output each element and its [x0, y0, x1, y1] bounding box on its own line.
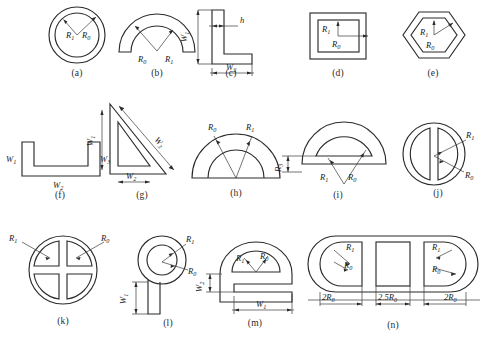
panel-a-label-r0: R0 [81, 30, 91, 41]
panel-m-caption: (m) [200, 318, 310, 328]
panel-m-label-w1: W1 [256, 299, 266, 310]
panel-k-caption: (k) [8, 316, 118, 326]
panel-d-label-r1: R1 [321, 24, 330, 35]
panel-j-label-r1: R1 [465, 130, 474, 141]
panel-e-drawing: R1 R0 [383, 4, 483, 66]
panel-c-label-w1: W1 [179, 32, 190, 42]
panel-m-drawing: R1 R0 W2 W1 [200, 228, 310, 320]
panel-e: R1 R0 (e) [383, 4, 483, 66]
panel-h-label-r1: R1 [245, 122, 254, 133]
panel-n: R1 R0 R1 R0 2R0 2.5R0 2R0 (n [300, 230, 486, 322]
panel-k: R1 R0 (k) [8, 228, 118, 314]
panel-c: W1 h W2 (c) [176, 4, 286, 70]
panel-n-drawing: R1 R0 R1 R0 2R0 2.5R0 2R0 [300, 230, 486, 322]
panel-n-label-dim-right: 2R0 [444, 292, 458, 303]
panel-i-label-r0: R0 [347, 172, 357, 183]
panel-i-caption: (i) [280, 190, 396, 200]
panel-c-label-h: h [240, 15, 244, 25]
panel-d-drawing: R1 R0 [288, 4, 388, 66]
panel-n-label-r1-right: R1 [431, 242, 440, 253]
panel-n-label-r0-left: R0 [343, 260, 353, 271]
panel-l-label-r0: R0 [187, 266, 197, 277]
panel-g-caption: (g) [88, 190, 196, 200]
panel-k-drawing: R1 R0 [8, 228, 118, 314]
panel-c-drawing: W1 h W2 [176, 4, 286, 70]
panel-k-label-r0: R0 [100, 233, 110, 244]
panel-g: W1 W2 W3 (g) [88, 100, 196, 192]
panel-b-label-r0: R0 [137, 54, 147, 65]
panel-j-label-r0: R0 [464, 170, 474, 181]
panel-l-label-w1: W1 [118, 294, 129, 304]
panel-h-drawing: R0 R1 [184, 116, 288, 190]
panel-d-label-r0: R0 [331, 39, 341, 50]
panel-d: R1 R0 (d) [288, 4, 388, 66]
panel-i: R1 R0 R3 (i) [280, 122, 396, 192]
panel-j: R1 R0 (j) [390, 118, 486, 190]
panel-d-caption: (d) [288, 68, 388, 78]
panel-g-drawing: W1 W2 W3 [88, 100, 196, 192]
panel-i-drawing: R1 R0 R3 [280, 122, 396, 192]
panel-m-label-r0: R0 [259, 251, 269, 262]
panel-e-label-r1: R1 [419, 27, 428, 38]
panel-j-caption: (j) [390, 188, 486, 198]
panel-j-drawing: R1 R0 [390, 118, 486, 190]
panel-n-label-dim-mid: 2.5R0 [378, 292, 398, 303]
panel-i-label-r1: R1 [319, 172, 328, 183]
panel-a-label-r1: R1 [65, 30, 74, 41]
panel-e-label-r0: R0 [425, 40, 435, 51]
panel-n-caption: (n) [300, 320, 486, 330]
figure-sheet: R1 R0 (a) R0 R1 (b) W1 h [0, 0, 488, 355]
panel-g-label-w2: W2 [126, 171, 136, 182]
panel-n-label-dim-left: 2R0 [322, 292, 336, 303]
panel-m: R1 R0 W2 W1 (m) [200, 228, 310, 320]
panel-g-label-w3: W3 [152, 135, 167, 150]
panel-h: R0 R1 (h) [184, 116, 288, 190]
panel-k-label-r1: R1 [8, 233, 17, 244]
panel-n-label-r1-left: R1 [345, 242, 354, 253]
panel-b-label-r1: R1 [164, 54, 173, 65]
panel-h-label-r0: R0 [207, 122, 217, 133]
panel-n-label-r0-right: R0 [431, 264, 441, 275]
panel-f-label-w1: W1 [6, 154, 16, 165]
panel-c-caption: (c) [176, 68, 286, 78]
panel-e-caption: (e) [383, 68, 483, 78]
panel-l-label-r1: R1 [185, 234, 194, 245]
panel-h-caption: (h) [184, 188, 288, 198]
